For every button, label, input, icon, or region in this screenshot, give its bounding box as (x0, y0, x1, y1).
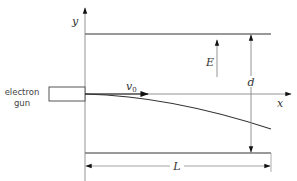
velocity-label: v0 (126, 80, 137, 94)
electric-field-label: E (205, 56, 214, 69)
y-axis-label: y (71, 15, 79, 28)
electron-deflection-diagram: y x electron gun v0 E d L (0, 0, 297, 181)
x-axis-label: x (277, 97, 284, 110)
velocity-label-subscript: 0 (132, 86, 136, 94)
length-label: L (172, 160, 180, 173)
electron-gun (49, 87, 85, 101)
separation-label: d (247, 76, 254, 89)
electron-gun-label: electron (5, 87, 40, 97)
electron-gun-label-2: gun (14, 98, 30, 108)
electron-trajectory (85, 94, 271, 129)
